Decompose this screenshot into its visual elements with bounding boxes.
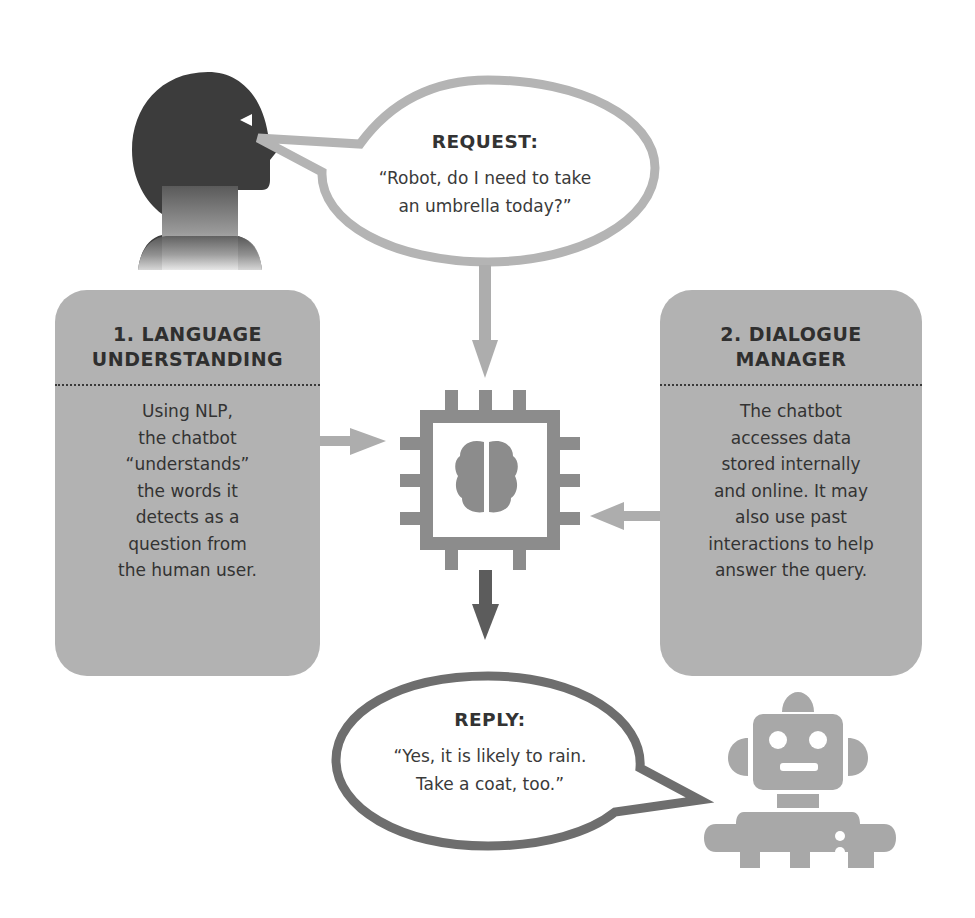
reply-text: REPLY: “Yes, it is likely to rain. Take … xyxy=(340,708,640,798)
request-label: REQUEST: xyxy=(330,130,640,154)
step-title: 1. LANGUAGE UNDERSTANDING xyxy=(55,290,320,384)
request-quote: “Robot, do I need to take an umbrella to… xyxy=(330,164,640,220)
request-text: REQUEST: “Robot, do I need to take an um… xyxy=(330,130,640,220)
chatbot-diagram: REQUEST: “Robot, do I need to take an um… xyxy=(0,0,975,918)
step-dialogue-manager: 2. DIALOGUE MANAGER The chatbot accesses… xyxy=(660,290,922,676)
arrow-request-to-chip xyxy=(472,265,498,378)
step-description: The chatbot accesses data stored interna… xyxy=(660,386,922,584)
robot-icon xyxy=(704,692,896,868)
reply-quote: “Yes, it is likely to rain. Take a coat,… xyxy=(340,742,640,798)
step-description: Using NLP, the chatbot “understands” the… xyxy=(55,386,320,584)
step-language-understanding: 1. LANGUAGE UNDERSTANDING Using NLP, the… xyxy=(55,290,320,676)
arrow-understanding-to-chip xyxy=(318,428,386,455)
reply-label: REPLY: xyxy=(340,708,640,732)
brain-icon xyxy=(455,441,518,512)
arrow-chip-to-reply xyxy=(472,570,499,640)
arrow-manager-to-chip xyxy=(590,502,662,530)
step-title: 2. DIALOGUE MANAGER xyxy=(660,290,922,384)
human-head-icon xyxy=(132,72,278,270)
